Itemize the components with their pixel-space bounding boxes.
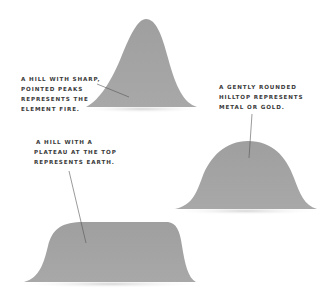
metal-hill [175,141,317,209]
fire-annotation-line-4: element fire. [21,104,101,114]
fire-hill [86,19,197,107]
fire-annotation-line-1: A hill with sharp, [21,74,101,84]
metal-annotation: A gently rounded hilltop represents meta… [219,82,304,112]
metal-annotation-line-1: A gently rounded [219,82,304,92]
fire-annotation-line-3: represents the [21,94,101,104]
earth-annotation-line-3: represents earth. [34,157,117,167]
fire-annotation: A hill with sharp, pointed peaks represe… [21,74,101,114]
fire-annotation-line-2: pointed peaks [21,84,101,94]
earth-annotation-line-2: plateau at the top [34,147,117,157]
earth-annotation: A hill with a plateau at the top represe… [34,137,117,167]
earth-annotation-line-1: A hill with a [34,137,117,147]
metal-annotation-line-3: metal or gold. [219,102,304,112]
earth-hill [24,222,196,282]
metal-annotation-line-2: hilltop represents [219,92,304,102]
